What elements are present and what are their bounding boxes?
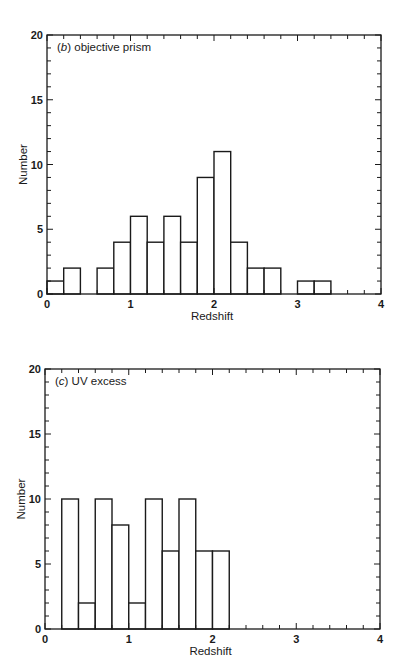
x-tick-label: 1 xyxy=(126,633,132,645)
x-tick-label: 3 xyxy=(294,298,300,310)
histogram-bar xyxy=(197,177,214,294)
histogram-bar xyxy=(114,242,131,294)
histogram-bar xyxy=(164,216,181,294)
x-tick-label: 2 xyxy=(209,633,215,645)
y-tick-label: 5 xyxy=(37,223,43,235)
histogram-bar xyxy=(47,281,64,294)
y-tick-label: 0 xyxy=(37,288,43,300)
histogram-bar xyxy=(231,242,248,294)
x-axis-title: Redshift xyxy=(191,310,234,322)
histogram-bar xyxy=(181,242,198,294)
histogram-bar xyxy=(97,268,114,294)
panel-label: (c) UV excess xyxy=(55,375,127,387)
histogram-bar xyxy=(146,499,163,629)
histogram-bar xyxy=(247,268,264,294)
y-tick-label: 10 xyxy=(29,493,41,505)
y-axis-title: Number xyxy=(17,144,29,185)
histogram-bar xyxy=(214,152,231,294)
histogram-bar xyxy=(179,499,196,629)
histogram-bar xyxy=(314,281,331,294)
y-tick-label: 15 xyxy=(29,428,41,440)
y-axis-title: Number xyxy=(15,478,27,519)
y-tick-label: 20 xyxy=(29,363,41,375)
x-tick-label: 3 xyxy=(293,633,299,645)
histogram-bar xyxy=(196,551,213,629)
histogram-bar xyxy=(162,551,179,629)
histogram-bar xyxy=(62,499,79,629)
bars xyxy=(62,499,230,629)
x-tick-label: 1 xyxy=(127,298,133,310)
histogram-bar xyxy=(264,268,281,294)
histogram-bar xyxy=(95,499,112,629)
y-tick-label: 0 xyxy=(35,623,41,635)
x-tick-label: 0 xyxy=(44,298,50,310)
panel-label: (b) objective prism xyxy=(57,41,151,53)
histogram-bar xyxy=(213,551,230,629)
histogram-bar xyxy=(129,603,146,629)
x-tick-label: 4 xyxy=(377,633,384,645)
histogram-bar xyxy=(131,216,148,294)
x-tick-label: 4 xyxy=(378,298,385,310)
histogram-objective-prism: 0123405101520RedshiftNumber(b) objective… xyxy=(0,0,400,330)
histogram-bar xyxy=(147,242,164,294)
y-tick-label: 5 xyxy=(35,558,41,570)
x-tick-label: 2 xyxy=(211,298,217,310)
bars xyxy=(47,152,331,294)
histogram-uv-excess: 0123405101520RedshiftNumber(c) UV excess xyxy=(0,334,400,664)
y-tick-label: 20 xyxy=(31,29,43,41)
histogram-bar xyxy=(64,268,81,294)
y-tick-label: 15 xyxy=(31,94,43,106)
histogram-bar xyxy=(298,281,315,294)
x-axis-title: Redshift xyxy=(189,645,232,657)
y-tick-label: 10 xyxy=(31,159,43,171)
x-tick-label: 0 xyxy=(42,633,48,645)
histogram-bar xyxy=(79,603,96,629)
histogram-bar xyxy=(112,525,129,629)
